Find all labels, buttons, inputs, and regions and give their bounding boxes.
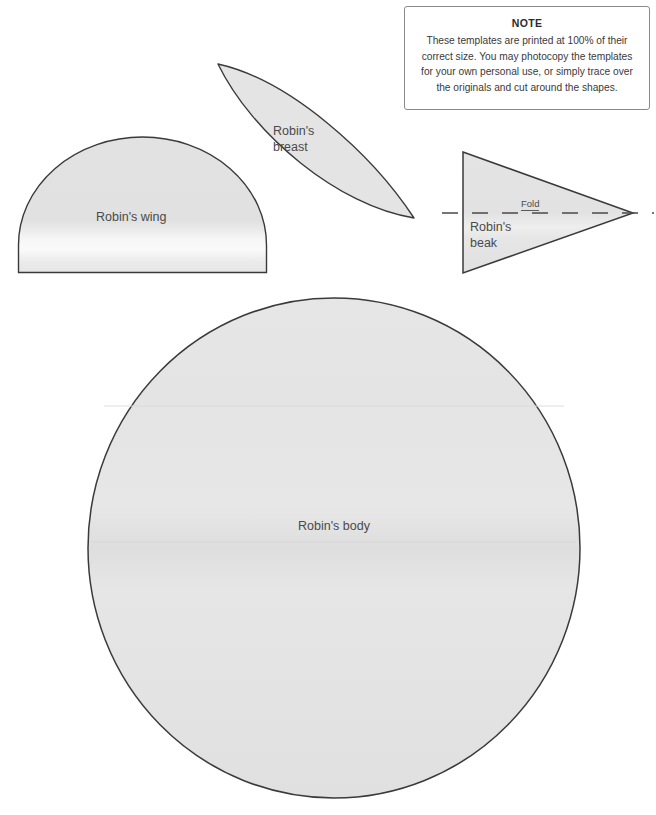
template-sheet-page: NOTE These templates are printed at 100%… — [0, 0, 656, 815]
body-outline — [88, 298, 580, 798]
fold-label: Fold — [521, 198, 539, 211]
robins-body-shape — [84, 294, 584, 802]
note-title: NOTE — [415, 16, 639, 30]
robins-breast-shape — [212, 58, 420, 224]
body-svg — [84, 294, 584, 802]
beak-svg — [436, 146, 656, 280]
note-box: NOTE These templates are printed at 100%… — [404, 6, 650, 110]
note-body: These templates are printed at 100% of t… — [415, 33, 639, 95]
robins-beak-shape — [436, 146, 656, 280]
breast-outline — [218, 64, 414, 218]
breast-svg — [212, 58, 420, 224]
